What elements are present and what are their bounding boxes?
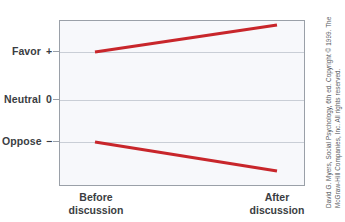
ytick-label-oppose: Oppose− [2, 135, 54, 148]
xtick-after-line1: After [265, 191, 290, 203]
series-line-favor [95, 25, 277, 52]
source-credit: David G. Myers, Social Psychology, 6th e… [317, 18, 343, 208]
ytick-symbol-oppose: − [44, 135, 54, 148]
polarization-line-chart: Favor+ Neutral0 Oppose− Before discussio… [0, 0, 345, 222]
ytick-symbol-neutral: 0 [44, 93, 54, 106]
ytick-label-neutral: Neutral0 [2, 93, 54, 106]
ytick-name-neutral: Neutral [2, 93, 41, 106]
xtick-before-line2: discussion [51, 204, 141, 217]
xtick-before-line1: Before [79, 191, 112, 203]
ytick-label-favor: Favor+ [2, 45, 54, 58]
ytick-name-favor: Favor [2, 45, 41, 58]
series-layer [59, 20, 305, 186]
ytick-name-oppose: Oppose [2, 135, 41, 148]
xtick-label-after: After discussion [232, 191, 322, 217]
source-credit-line2: McGraw-Hill Companies, Inc. All rights r… [334, 69, 341, 208]
xtick-after-line2: discussion [232, 204, 322, 217]
source-credit-line1: David G. Myers, Social Psychology, 6th e… [325, 17, 332, 208]
ytick-symbol-favor: + [44, 45, 54, 58]
xtick-label-before: Before discussion [51, 191, 141, 217]
series-line-oppose [95, 142, 277, 171]
